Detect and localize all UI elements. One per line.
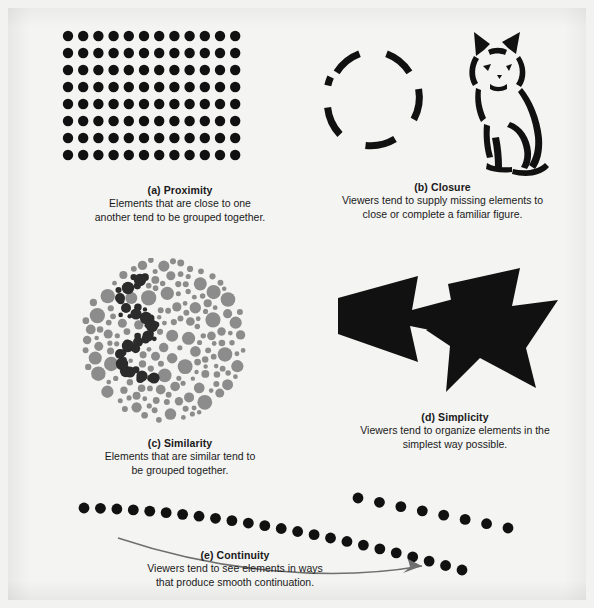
dot-grid-icon [60, 28, 300, 180]
caption-line-continuity-2: that produce smooth continuation. [105, 576, 365, 590]
caption-line-simplicity-2: simplest way possible. [330, 438, 580, 452]
caption-simplicity: (d) Simplicity Viewers tend to organize … [330, 410, 580, 451]
broken-circle-icon [318, 44, 428, 154]
caption-continuity: (e) Continuity Viewers tend to see eleme… [105, 548, 365, 589]
gestalt-figure: (a) Proximity Elements that are close to… [0, 0, 594, 608]
caption-line-continuity-1: Viewers tend to see elements in ways [105, 562, 365, 576]
cat-silhouette-icon [450, 26, 570, 176]
caption-title-closure: (b) Closure [310, 180, 575, 194]
closure-cat-art [450, 26, 570, 176]
dot-cloud-icon [78, 258, 258, 430]
caption-title-proximity: (a) Proximity [60, 183, 300, 197]
panel-continuity: (e) Continuity Viewers tend to see eleme… [70, 486, 530, 596]
simplicity-arrows-art [330, 262, 562, 407]
caption-line-simplicity-1: Viewers tend to organize elements in the [330, 424, 580, 438]
caption-title-simplicity: (d) Simplicity [330, 410, 580, 424]
caption-title-similarity: (c) Similarity [60, 436, 300, 450]
similarity-dot-cloud-art [78, 258, 258, 430]
panel-closure: (b) Closure Viewers tend to supply missi… [310, 22, 575, 222]
panel-similarity: (c) Similarity Elements that are similar… [60, 258, 300, 473]
overlapping-arrows-icon [330, 262, 562, 407]
panel-simplicity: (d) Simplicity Viewers tend to organize … [330, 262, 580, 462]
caption-line-closure-1: Viewers tend to supply missing elements … [310, 194, 575, 208]
caption-proximity: (a) Proximity Elements that are close to… [60, 183, 300, 224]
caption-line-similarity-2: be grouped together. [60, 464, 300, 478]
caption-line-proximity-2: another tend to be grouped together. [60, 211, 300, 225]
caption-similarity: (c) Similarity Elements that are similar… [60, 436, 300, 477]
caption-title-continuity: (e) Continuity [105, 548, 365, 562]
panel-proximity: (a) Proximity Elements that are close to… [60, 28, 300, 218]
closure-broken-circle-art [318, 44, 428, 154]
caption-line-similarity-1: Elements that are similar tend to [60, 450, 300, 464]
caption-line-closure-2: close or complete a familiar figure. [310, 208, 575, 222]
proximity-dot-grid-art [60, 28, 300, 180]
caption-closure: (b) Closure Viewers tend to supply missi… [310, 180, 575, 221]
caption-line-proximity-1: Elements that are close to one [60, 197, 300, 211]
